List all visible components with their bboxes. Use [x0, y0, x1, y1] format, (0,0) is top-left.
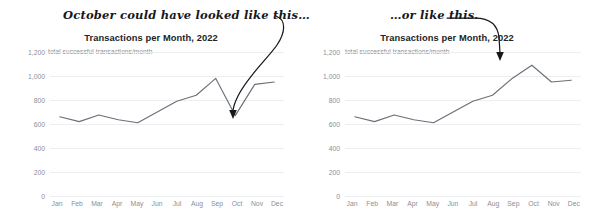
y-axis-tick-label: 1,200: [323, 49, 340, 56]
x-axis-tick-label: Jun: [148, 200, 166, 207]
chart-title-left: Transactions per Month, 2022: [0, 33, 296, 43]
x-axis-tick-label: Jun: [444, 200, 462, 207]
x-axis-tick-label: Oct: [228, 200, 246, 207]
x-axis-labels-right: JanFebMarAprMayJunJulAugSepOctNovDec: [345, 200, 581, 207]
x-axis-tick-label: Apr: [404, 200, 422, 207]
plot-area-right: 02004006008001,0001,200: [345, 52, 581, 196]
x-axis-tick-label: Nov: [545, 200, 563, 207]
annotation-left: October could have looked like this…: [63, 8, 310, 22]
y-axis-tick-label: 1,000: [323, 73, 340, 80]
x-axis-tick-label: Mar: [88, 200, 106, 207]
y-axis-tick-label: 1,000: [28, 73, 45, 80]
x-axis-labels-left: JanFebMarAprMayJunJulAugSepOctNovDec: [50, 200, 284, 207]
y-axis-tick-label: 400: [329, 145, 340, 152]
x-axis-tick-label: Jul: [168, 200, 186, 207]
plot-area-left: 02004006008001,0001,200: [50, 52, 284, 196]
x-axis-tick-label: Aug: [484, 200, 502, 207]
chart-panel-left: October could have looked like this… Tra…: [0, 0, 296, 222]
x-axis-tick-label: Dec: [268, 200, 286, 207]
y-axis-tick-label: 0: [41, 193, 45, 200]
x-axis-tick-label: Apr: [108, 200, 126, 207]
x-axis-tick-label: Aug: [188, 200, 206, 207]
chart-comparison-board: October could have looked like this… Tra…: [0, 0, 593, 222]
x-axis-tick-label: Dec: [565, 200, 583, 207]
x-axis-tick-label: Jan: [48, 200, 66, 207]
x-axis-tick-label: Sep: [504, 200, 522, 207]
gridline: 0: [345, 196, 581, 197]
y-axis-tick-label: 600: [34, 121, 45, 128]
x-axis-tick-label: Nov: [248, 200, 266, 207]
x-axis-tick-label: Sep: [208, 200, 226, 207]
y-axis-tick-label: 400: [34, 145, 45, 152]
gridline: 0: [50, 196, 284, 197]
chart-title-right: Transactions per Month, 2022: [297, 33, 593, 43]
x-axis-tick-label: Jan: [343, 200, 361, 207]
x-axis-tick-label: May: [424, 200, 442, 207]
x-axis-tick-label: Feb: [68, 200, 86, 207]
y-axis-tick-label: 800: [329, 97, 340, 104]
series-line: [355, 65, 571, 123]
x-axis-tick-label: Jul: [464, 200, 482, 207]
x-axis-tick-label: May: [128, 200, 146, 207]
y-axis-tick-label: 200: [34, 169, 45, 176]
series-line: [60, 78, 275, 122]
y-axis-tick-label: 800: [34, 97, 45, 104]
y-axis-tick-label: 200: [329, 169, 340, 176]
x-axis-tick-label: Mar: [383, 200, 401, 207]
transactions-line-series: [345, 52, 581, 196]
chart-panel-right: …or like this. Transactions per Month, 2…: [297, 0, 593, 222]
transactions-line-series: [50, 52, 284, 196]
annotation-right: …or like this.: [390, 8, 479, 22]
y-axis-tick-label: 600: [329, 121, 340, 128]
x-axis-tick-label: Feb: [363, 200, 381, 207]
y-axis-tick-label: 0: [336, 193, 340, 200]
x-axis-tick-label: Oct: [525, 200, 543, 207]
y-axis-tick-label: 1,200: [28, 49, 45, 56]
